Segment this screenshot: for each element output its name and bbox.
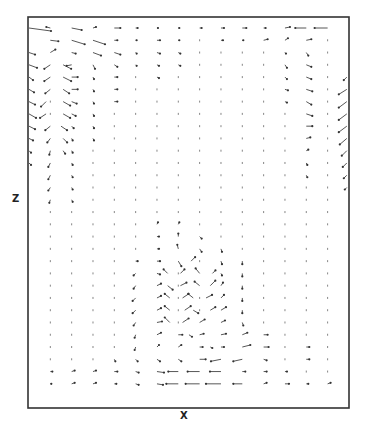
arrow-head — [241, 288, 243, 290]
arrow-head — [307, 149, 309, 151]
arrow-head — [241, 263, 243, 265]
arrow-head — [205, 358, 207, 360]
arrow-head — [35, 117, 37, 119]
vector-arrow — [340, 138, 347, 144]
arrow-head — [286, 370, 288, 372]
arrow-head — [338, 107, 340, 109]
arrow-head — [93, 90, 95, 92]
arrow-head — [232, 360, 234, 362]
vector-arrow — [233, 359, 242, 361]
arrow-head — [310, 78, 312, 80]
arrow-head — [163, 268, 165, 270]
arrow-head — [288, 383, 290, 385]
arrow-head — [306, 176, 308, 178]
arrow-head — [33, 91, 35, 93]
vector-arrow — [63, 102, 70, 106]
vector-arrow — [93, 53, 101, 56]
arrow-head — [267, 38, 269, 40]
arrow-head — [343, 79, 345, 81]
arrow-head — [72, 176, 74, 178]
arrow-head — [287, 89, 289, 91]
vector-field-plot — [0, 0, 370, 438]
arrow-head — [285, 52, 287, 54]
arrow-head — [74, 382, 76, 384]
arrow-head — [50, 30, 52, 32]
arrow-head — [221, 274, 223, 276]
arrow-head — [225, 306, 227, 308]
arrow-head — [205, 383, 207, 385]
arrow-head — [167, 370, 169, 372]
arrow-head — [180, 265, 182, 267]
arrow-head — [179, 65, 181, 67]
arrow-head — [286, 102, 288, 104]
arrow-head — [164, 316, 166, 318]
arrow-head — [308, 346, 310, 348]
arrow-head — [116, 66, 118, 68]
arrow-head — [294, 27, 296, 29]
arrow-head — [50, 383, 52, 385]
arrow-head — [74, 369, 76, 371]
arrow-head — [222, 282, 224, 284]
arrow-head — [72, 201, 74, 203]
arrow-head — [194, 281, 196, 283]
arrow-head — [72, 188, 74, 190]
arrow-head — [132, 300, 134, 302]
arrow-head — [36, 67, 38, 69]
arrow-head — [44, 129, 46, 131]
arrow-head — [159, 273, 161, 275]
arrow-head — [222, 39, 224, 41]
arrow-head — [73, 127, 75, 129]
arrow-head — [68, 92, 70, 94]
arrow-head — [161, 320, 163, 322]
vector-arrow — [242, 345, 250, 347]
arrow-head — [195, 267, 197, 269]
arrow-head — [165, 383, 167, 385]
arrow-head — [164, 293, 166, 295]
arrow-head — [159, 52, 161, 54]
x-axis-label: X — [180, 410, 188, 421]
arrow-head — [69, 105, 71, 107]
arrow-head — [46, 141, 48, 143]
arrow-head — [136, 52, 138, 54]
arrow-head — [77, 88, 79, 90]
arrow-head — [310, 66, 312, 68]
arrow-head — [158, 77, 160, 79]
arrow-head — [43, 80, 45, 82]
arrow-head — [138, 371, 140, 373]
arrow-head — [187, 317, 189, 319]
arrow-head — [30, 152, 32, 154]
arrow-head — [47, 189, 49, 191]
arrow-head — [339, 143, 341, 145]
arrow-head — [310, 104, 312, 106]
arrow-head — [311, 90, 313, 92]
arrow-head — [44, 92, 46, 94]
arrow-head — [93, 127, 95, 129]
arrow-head — [134, 337, 136, 339]
arrow-head — [232, 383, 234, 385]
arrow-head — [224, 319, 226, 321]
arrow-head — [187, 370, 189, 372]
arrow-head — [160, 295, 162, 297]
arrow-head — [268, 346, 270, 348]
arrow-head — [178, 39, 180, 41]
arrow-head — [114, 360, 116, 362]
arrow-head — [202, 346, 204, 348]
arrow-head — [137, 360, 139, 362]
vector-arrow — [93, 40, 105, 44]
arrow-head — [185, 282, 187, 284]
arrow-head — [81, 29, 83, 31]
vector-arrow — [339, 89, 347, 94]
arrow-head — [115, 383, 117, 385]
arrow-head — [64, 153, 66, 155]
arrow-head — [95, 382, 97, 384]
arrow-head — [158, 248, 160, 250]
arrow-head — [211, 347, 213, 349]
arrow-head — [190, 305, 192, 307]
arrow-head — [116, 39, 118, 41]
arrow-head — [47, 166, 49, 168]
arrow-head — [160, 283, 162, 285]
arrow-head — [134, 349, 136, 351]
arrow-head — [48, 202, 50, 204]
arrow-head — [306, 164, 308, 166]
arrow-head — [265, 27, 267, 29]
